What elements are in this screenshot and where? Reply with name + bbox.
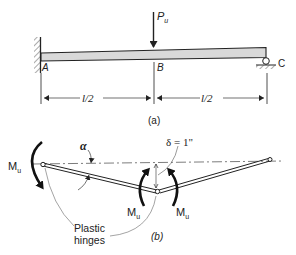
- deflection-leader: [158, 146, 178, 175]
- alpha-arrow-top: [88, 150, 91, 163]
- center-right-moment-label: Mu: [176, 206, 189, 220]
- center-left-moment-label: Mu: [127, 206, 140, 220]
- left-moment-label: Mu: [8, 160, 21, 174]
- figure-b: α δ = 1" Mu Mu Mu Plastic hinges (b): [8, 136, 284, 246]
- point-a-label: A: [41, 62, 49, 73]
- beam-diagram: Pu A B C l/2 l/2 (a): [0, 0, 296, 255]
- center-right-moment-arrow: [169, 170, 177, 206]
- alpha-arrow-bottom: [78, 175, 89, 190]
- point-c-label: C: [278, 58, 285, 69]
- dimension-left-label: l/2: [82, 92, 94, 104]
- deflection-label: δ = 1": [166, 136, 193, 148]
- center-plastic-hinge: [155, 189, 159, 193]
- dimension-right-label: l/2: [201, 92, 213, 104]
- figure-a: Pu A B C l/2 l/2 (a): [34, 10, 285, 126]
- beam: [41, 48, 266, 62]
- right-end-support: [268, 158, 272, 162]
- dimension-left: l/2: [44, 92, 151, 104]
- reference-line: [32, 161, 284, 164]
- hinge-leader-left: [45, 168, 74, 226]
- fixed-wall-support: [34, 37, 41, 73]
- deflected-beam-right: [159, 158, 270, 193]
- point-b-label: B: [157, 62, 164, 73]
- caption-b: (b): [151, 231, 163, 242]
- plastic-hinges-label-line1: Plastic: [74, 222, 105, 234]
- roller-support: [256, 58, 276, 69]
- plastic-hinges-label-line2: hinges: [74, 234, 105, 246]
- caption-a: (a): [148, 115, 160, 126]
- dimension-right: l/2: [157, 92, 264, 104]
- alpha-label: α: [80, 139, 87, 153]
- left-plastic-hinge: [41, 162, 45, 166]
- load-label: Pu: [157, 10, 168, 24]
